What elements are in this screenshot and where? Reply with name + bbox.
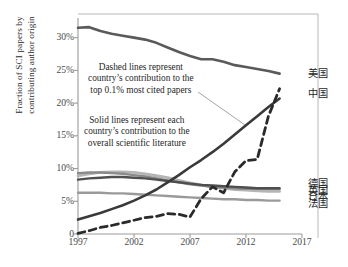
- legend-china: 中国: [308, 88, 328, 99]
- annotation-leader-line: [198, 92, 245, 125]
- annotation-solid-line-3: overall scientific literature: [84, 138, 190, 149]
- series-line-france-overall: [78, 193, 280, 201]
- series-line-germany-overall: [78, 177, 280, 188]
- figure-caption: [0, 259, 348, 267]
- annotation-dashed-line-1: Dashed lines represent: [88, 62, 194, 73]
- legend-united-states: 美国: [308, 68, 328, 79]
- legend-france: 法国: [308, 198, 328, 209]
- chart-container: Fraction of SCI papers by contributing a…: [0, 0, 348, 267]
- annotation-solid-line-2: country’s contribution to the: [84, 126, 190, 137]
- annotation-dashed-line-2: country’s contribution to the: [88, 73, 194, 84]
- annotation-dashed-lines: Dashed lines represent country’s contrib…: [88, 62, 194, 96]
- annotation-solid-line-1: Solid lines represent each: [84, 115, 190, 126]
- annotation-solid-lines: Solid lines represent each country’s con…: [84, 115, 190, 149]
- annotation-dashed-line-3: top 0.1% most cited papers: [88, 85, 194, 96]
